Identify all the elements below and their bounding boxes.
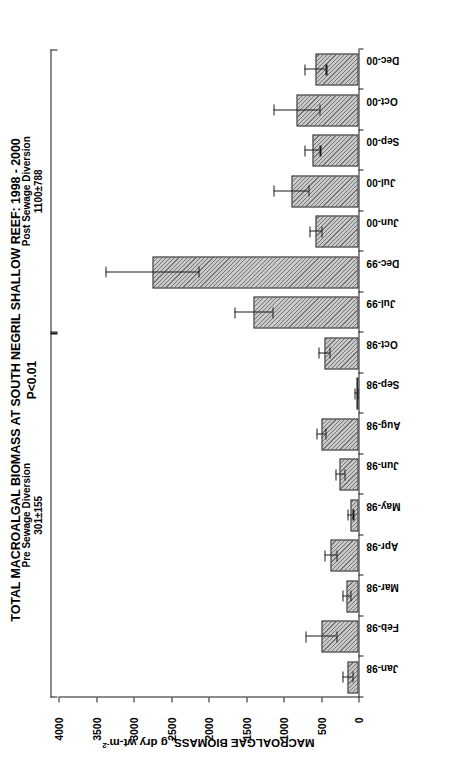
error-bar-line	[304, 68, 326, 69]
bar-slot	[58, 337, 358, 369]
error-bar-cap-upper	[335, 469, 336, 480]
value-tick-label-text: 2500	[165, 717, 177, 740]
category-tick	[358, 250, 363, 251]
bar-slot	[58, 256, 358, 288]
value-tick	[171, 697, 172, 702]
category-tick	[358, 169, 363, 170]
error-bar-line	[273, 109, 320, 110]
value-tick	[208, 697, 209, 702]
error-bar-cap-lower	[325, 428, 326, 439]
category-label: Jun-98	[366, 459, 398, 470]
value-tick	[246, 697, 247, 702]
category-tick	[358, 372, 363, 373]
category-tick	[358, 48, 363, 49]
category-tick	[358, 615, 363, 616]
error-bar-cap-upper	[318, 347, 319, 358]
bar-slot	[58, 134, 358, 166]
group-bracket-post	[50, 49, 51, 333]
group-label-pre-line2: 301±155	[32, 333, 44, 698]
value-tick	[358, 697, 359, 702]
error-bar-cap-upper	[354, 388, 355, 399]
error-bar-line	[318, 352, 329, 353]
value-tick-label-text: 2000	[202, 717, 214, 740]
group-label-pre: Pre Sewage Diversion 301±155	[20, 333, 44, 698]
category-tick	[358, 534, 363, 535]
error-bar-line	[105, 271, 198, 272]
error-bar-cap-upper	[347, 509, 348, 520]
bar-slot	[58, 53, 358, 85]
error-bar-cap-upper	[324, 550, 325, 561]
chart-canvas: MACROALGAE BIOMASS, g dry wt-m-2 0500100…	[58, 49, 358, 697]
group-label-post: Post Sewage Diversion 1100±788	[20, 49, 44, 333]
error-bar-cap-lower	[357, 388, 358, 399]
category-tick	[358, 88, 363, 89]
bar-slot	[58, 580, 358, 612]
category-label: Jul-99	[366, 297, 395, 308]
error-bar-cap-upper	[305, 631, 306, 642]
bar-slot	[58, 296, 358, 328]
group-label-post-line1: Post Sewage Diversion	[20, 49, 32, 333]
value-tick-label: 1000	[277, 717, 289, 740]
error-bar-line	[305, 635, 337, 636]
error-bar-line	[234, 311, 272, 312]
rotated-figure: TOTAL MACROALGAL BIOMASS AT SOUTH NEGRIL…	[0, 0, 472, 759]
category-label: Sep-00	[366, 135, 399, 146]
error-bar-cap-upper	[273, 185, 274, 196]
category-tick	[358, 291, 363, 292]
value-tick-label: 1500	[240, 717, 252, 740]
category-tick	[358, 412, 363, 413]
bar-slot	[58, 175, 358, 207]
error-bar-line	[324, 554, 336, 555]
value-axis-title-superscript: -2	[102, 741, 109, 750]
category-label: Jul-00	[366, 176, 395, 187]
value-tick	[321, 697, 322, 702]
value-tick	[96, 697, 97, 702]
category-tick	[358, 574, 363, 575]
category-tick	[358, 210, 363, 211]
error-bar-cap-lower	[352, 671, 353, 682]
value-tick-label-text: 4000	[52, 717, 64, 740]
error-bar-cap-lower	[336, 631, 337, 642]
error-bar-cap-upper	[234, 307, 235, 318]
error-bar-cap-lower	[321, 226, 322, 237]
value-tick-label: 0	[352, 717, 364, 723]
error-bar-cap-lower	[319, 145, 320, 156]
error-bar-cap-lower	[336, 550, 337, 561]
bar-slot	[58, 661, 358, 693]
group-label-post-line2: 1100±788	[32, 49, 44, 333]
bar-slot	[58, 539, 358, 571]
error-bar-line	[309, 230, 321, 231]
category-label: Oct-00	[366, 95, 397, 106]
value-tick	[58, 697, 59, 702]
category-tick	[358, 331, 363, 332]
value-tick-label-text: 0	[352, 717, 364, 723]
value-tick-label: 3500	[90, 717, 102, 740]
error-bar-cap-upper	[342, 671, 343, 682]
bar-slot	[58, 377, 358, 409]
value-tick	[133, 697, 134, 702]
bar-slot	[58, 620, 358, 652]
category-label: Jan-98	[366, 662, 398, 673]
plot-area: TOTAL MACROALGAL BIOMASS AT SOUTH NEGRIL…	[0, 0, 472, 759]
error-bar-cap-upper	[342, 590, 343, 601]
error-bar-cap-upper	[105, 266, 106, 277]
error-bar-cap-upper	[316, 428, 317, 439]
category-label: Dec-99	[366, 257, 399, 268]
error-bar-cap-lower	[344, 469, 345, 480]
value-tick-label-text: 3500	[90, 717, 102, 740]
error-bar-cap-lower	[308, 185, 309, 196]
category-label: Jun-00	[366, 216, 398, 227]
group-label-pre-line1: Pre Sewage Diversion	[20, 333, 32, 698]
category-tick	[358, 696, 363, 697]
category-label: Oct-98	[366, 338, 397, 349]
category-label: Apr-98	[366, 540, 398, 551]
error-bar-cap-lower	[329, 347, 330, 358]
value-tick-label-text: 1000	[277, 717, 289, 740]
error-bar-line	[304, 149, 320, 150]
category-tick	[358, 129, 363, 130]
error-bar-cap-lower	[352, 509, 353, 520]
category-tick	[358, 655, 363, 656]
figure-frame: TOTAL MACROALGAL BIOMASS AT SOUTH NEGRIL…	[0, 0, 472, 759]
category-label: Mar-98	[366, 581, 398, 592]
error-bar-cap-upper	[309, 226, 310, 237]
